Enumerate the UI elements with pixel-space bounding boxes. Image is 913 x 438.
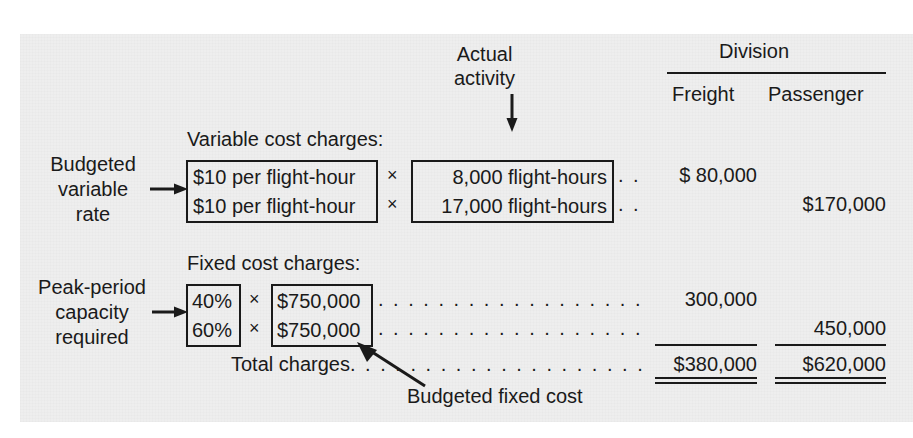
percent-freight-cell: 40% (188, 287, 239, 316)
variable-cost-section-title: Variable cost charges: (187, 129, 383, 149)
budgeted-variable-rate-box: $10 per flight-hour $10 per flight-hour (186, 160, 378, 223)
activity-hours-passenger-cell: 17,000 flight-hours (413, 192, 612, 221)
multiplication-sign-fixed-freight: × (249, 285, 260, 314)
multiplication-sign-fixed-passenger: × (249, 314, 260, 343)
percent-passenger-cell: 60% (188, 316, 239, 345)
figure-canvas: Division Freight Passenger Actual activi… (0, 0, 913, 438)
total-double-rule-freight-top (655, 377, 757, 379)
variable-rate-passenger-cell: $10 per flight-hour (188, 192, 376, 221)
column-header-freight: Freight (672, 84, 734, 104)
amount-variable-freight: $ 80,000 (644, 161, 757, 190)
division-header-label: Division (719, 41, 789, 61)
fixed-cost-section-title: Fixed cost charges: (187, 253, 360, 273)
peak-period-percent-box: 40% 60% (186, 284, 241, 347)
column-header-passenger: Passenger (768, 84, 864, 104)
total-double-rule-freight-bottom (655, 382, 757, 384)
leader-dots-variable-passenger: . . . (618, 190, 652, 219)
total-double-rule-passenger-top (775, 377, 886, 379)
leader-dots-fixed-passenger: . . . . . . . . . . . . . . . . . . . . … (378, 314, 652, 343)
total-charges-label: Total charges (231, 350, 350, 379)
actual-activity-callout-label: Actual activity (454, 42, 515, 91)
total-double-rule-passenger-bottom (775, 382, 886, 384)
variable-rate-freight-cell: $10 per flight-hour (188, 163, 376, 192)
leader-dots-fixed-freight: . . . . . . . . . . . . . . . . . . . . … (378, 285, 652, 314)
amount-fixed-passenger: 450,000 (764, 314, 886, 343)
subtotal-rule-freight (655, 344, 757, 346)
amount-fixed-freight: 300,000 (644, 285, 757, 314)
peak-period-capacity-arrow-icon (152, 305, 188, 319)
budgeted-variable-rate-arrow-icon (150, 182, 188, 196)
amount-total-freight: $380,000 (644, 350, 757, 379)
budgeted-variable-rate-callout-label: Budgeted variable rate (32, 152, 154, 227)
amount-total-passenger: $620,000 (764, 350, 886, 379)
actual-activity-arrow-icon (505, 94, 519, 132)
subtotal-rule-passenger (775, 344, 886, 346)
amount-variable-passenger: $170,000 (764, 190, 886, 219)
fixed-cost-freight-cell: $750,000 (273, 287, 371, 316)
multiplication-sign-variable-freight: × (387, 161, 398, 190)
budgeted-fixed-cost-arrow-icon (355, 340, 427, 388)
multiplication-sign-variable-passenger: × (387, 190, 398, 219)
actual-activity-hours-box: 8,000 flight-hours 17,000 flight-hours (411, 160, 614, 223)
budgeted-fixed-cost-callout-label: Budgeted fixed cost (407, 386, 583, 406)
peak-period-capacity-callout-label: Peak-period capacity required (28, 275, 156, 350)
activity-hours-freight-cell: 8,000 flight-hours (413, 163, 612, 192)
division-header-rule (667, 72, 886, 74)
budgeted-fixed-cost-box: $750,000 $750,000 (271, 284, 373, 347)
